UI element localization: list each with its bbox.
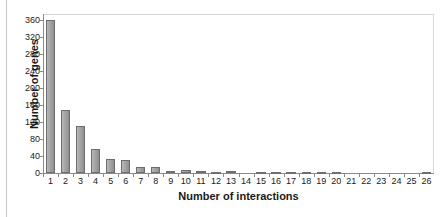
bar: [166, 171, 175, 173]
y-tick-mark: [39, 20, 43, 21]
bar: [136, 167, 145, 173]
x-tick-label: 25: [406, 176, 416, 186]
y-tick-mark: [39, 37, 43, 38]
x-tick-label: 22: [361, 176, 371, 186]
bar: [271, 172, 280, 174]
x-tick-mark: [193, 174, 194, 177]
bar: [76, 126, 85, 173]
x-tick-label: 20: [331, 176, 341, 186]
x-tick-mark: [314, 174, 315, 177]
x-tick-label: 7: [138, 176, 143, 186]
x-tick-label: 3: [78, 176, 83, 186]
x-tick-mark: [58, 174, 59, 177]
x-tick-mark: [254, 174, 255, 177]
x-tick-label: 17: [286, 176, 296, 186]
bar: [46, 20, 55, 173]
x-tick-label: 18: [301, 176, 311, 186]
x-tick-label: 5: [108, 176, 113, 186]
x-tick-mark: [73, 174, 74, 177]
y-tick-mark: [39, 54, 43, 55]
x-tick-mark: [118, 174, 119, 177]
x-tick-label: 10: [181, 176, 191, 186]
bar: [256, 172, 265, 174]
x-tick-mark: [88, 174, 89, 177]
x-tick-mark: [148, 174, 149, 177]
x-tick-label: 12: [211, 176, 221, 186]
x-tick-mark: [43, 174, 44, 177]
x-axis-title: Number of interactions: [43, 190, 434, 202]
bar: [121, 160, 130, 173]
x-tick-label: 13: [226, 176, 236, 186]
y-tick-mark: [39, 139, 43, 140]
x-tick-mark: [103, 174, 104, 177]
x-tick-label: 6: [123, 176, 128, 186]
y-tick-mark: [39, 156, 43, 157]
y-tick-mark: [39, 71, 43, 72]
bar: [302, 172, 311, 174]
x-tick-label: 4: [93, 176, 98, 186]
y-tick-mark: [39, 88, 43, 89]
bar: [286, 172, 295, 174]
page-edge-line: [6, 0, 7, 217]
x-tick-mark: [329, 174, 330, 177]
bar: [106, 159, 115, 173]
y-tick-mark: [39, 173, 43, 174]
x-tick-mark: [299, 174, 300, 177]
x-tick-label: 24: [391, 176, 401, 186]
bar: [151, 167, 160, 173]
x-tick-mark: [163, 174, 164, 177]
x-tick-mark: [178, 174, 179, 177]
x-tick-label: 19: [316, 176, 326, 186]
bar: [196, 171, 205, 173]
y-tick-mark: [39, 122, 43, 123]
y-axis-line: [43, 14, 44, 174]
x-tick-mark: [284, 174, 285, 177]
x-tick-mark: [239, 174, 240, 177]
x-tick-mark: [359, 174, 360, 177]
plot-frame: [43, 14, 434, 174]
x-tick-mark: [133, 174, 134, 177]
x-tick-mark: [374, 174, 375, 177]
x-tick-mark: [404, 174, 405, 177]
y-tick-mark: [39, 105, 43, 106]
bar: [332, 172, 341, 174]
x-tick-label: 15: [256, 176, 266, 186]
x-tick-mark: [419, 174, 420, 177]
x-tick-label: 23: [376, 176, 386, 186]
x-tick-label: 21: [346, 176, 356, 186]
bar: [61, 110, 70, 173]
x-tick-label: 14: [241, 176, 251, 186]
x-tick-mark: [223, 174, 224, 177]
bar: [317, 172, 326, 174]
bar: [422, 172, 431, 174]
x-tick-mark: [269, 174, 270, 177]
x-tick-label: 16: [271, 176, 281, 186]
chart-figure: 04080120160200240280320360 1234567891011…: [0, 0, 441, 217]
bar: [181, 170, 190, 173]
bar: [211, 172, 220, 174]
x-tick-label: 2: [63, 176, 68, 186]
x-tick-label: 9: [168, 176, 173, 186]
x-tick-mark: [389, 174, 390, 177]
x-tick-mark: [344, 174, 345, 177]
x-tick-label: 26: [421, 176, 431, 186]
x-tick-label: 11: [196, 176, 205, 186]
x-tick-label: 8: [153, 176, 158, 186]
x-tick-label: 1: [48, 176, 53, 186]
x-tick-mark: [208, 174, 209, 177]
bar: [91, 149, 100, 173]
bar: [226, 171, 235, 173]
